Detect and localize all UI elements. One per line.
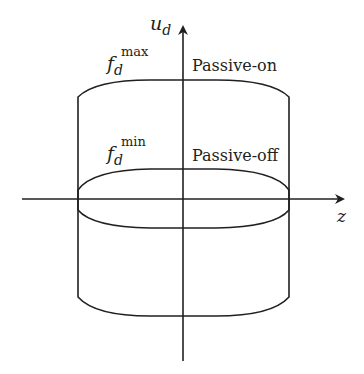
damper-force-diagram: ud z fdmax Passive-on fdmin Passive-off bbox=[0, 0, 364, 374]
passive-off-label: Passive-off bbox=[192, 146, 280, 165]
diagram: ud z fdmax Passive-on fdmin Passive-off bbox=[0, 0, 364, 374]
passive-on-label: Passive-on bbox=[192, 56, 277, 75]
fd-min-label: fdmin bbox=[105, 134, 147, 168]
vertical-axis-label: ud bbox=[150, 12, 171, 38]
fd-max-label: fdmax bbox=[105, 44, 149, 78]
horizontal-axis-label: z bbox=[336, 206, 347, 226]
